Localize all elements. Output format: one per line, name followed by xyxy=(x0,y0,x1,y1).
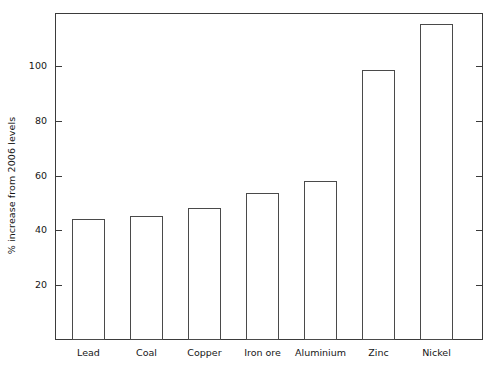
x-label-zinc: Zinc xyxy=(348,348,409,358)
bar-iron-ore xyxy=(246,193,279,340)
bar-copper xyxy=(188,208,221,340)
y-axis-title: % increase from 2006 levels xyxy=(0,0,22,371)
y-tick-mark-40 xyxy=(55,230,62,231)
x-label-nickel: Nickel xyxy=(406,348,467,358)
x-label-lead: Lead xyxy=(58,348,119,358)
y-tick-mark-20 xyxy=(55,285,62,286)
y-tick-label-100: 100 xyxy=(7,61,47,71)
bar-nickel xyxy=(420,24,453,340)
x-label-iron-ore: Iron ore xyxy=(232,348,293,358)
y-tick-mark-right-80 xyxy=(476,121,483,122)
bar-zinc xyxy=(362,70,395,340)
y-tick-label-80: 80 xyxy=(7,116,47,126)
y-tick-mark-60 xyxy=(55,176,62,177)
y-tick-mark-right-20 xyxy=(476,285,483,286)
y-tick-mark-right-60 xyxy=(476,176,483,177)
bar-coal xyxy=(130,216,163,340)
bar-aluminium xyxy=(304,181,337,340)
y-tick-label-40: 40 xyxy=(7,225,47,235)
y-tick-label-20: 20 xyxy=(7,280,47,290)
x-label-coal: Coal xyxy=(116,348,177,358)
x-label-aluminium: Aluminium xyxy=(290,348,351,358)
y-tick-mark-right-100 xyxy=(476,66,483,67)
bar-lead xyxy=(72,219,105,340)
y-tick-mark-right-40 xyxy=(476,230,483,231)
y-tick-label-60: 60 xyxy=(7,171,47,181)
y-tick-mark-100 xyxy=(55,66,62,67)
bar-chart: % increase from 2006 levels 20 40 60 80 … xyxy=(0,0,493,371)
y-tick-mark-80 xyxy=(55,121,62,122)
x-label-copper: Copper xyxy=(174,348,235,358)
